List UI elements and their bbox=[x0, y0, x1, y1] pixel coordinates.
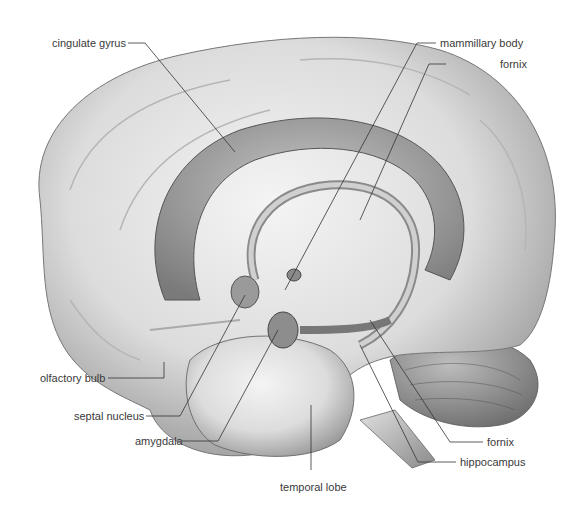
label-temporal-lobe: temporal lobe bbox=[280, 481, 347, 493]
label-cingulate-gyrus: cingulate gyrus bbox=[52, 37, 126, 49]
label-fornix-bottom: fornix bbox=[487, 436, 514, 448]
brain-illustration bbox=[0, 0, 582, 510]
brainstem bbox=[360, 410, 435, 468]
label-fornix-top: fornix bbox=[500, 58, 527, 70]
label-septal-nucleus: septal nucleus bbox=[74, 410, 144, 422]
label-mammillary-body: mammillary body bbox=[440, 37, 523, 49]
label-hippocampus: hippocampus bbox=[460, 456, 525, 468]
label-olfactory-bulb: olfactory bulb bbox=[40, 372, 105, 384]
label-amygdala: amygdala bbox=[135, 435, 183, 447]
temporal-lobe bbox=[186, 336, 354, 456]
